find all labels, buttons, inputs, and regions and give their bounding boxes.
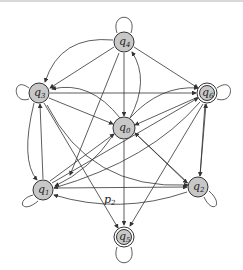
node-q6: q6 <box>197 83 217 103</box>
self-loops <box>16 17 230 263</box>
state-diagram: q4 q3 q6 q0 q1 q2 q5 p2 <box>0 0 243 270</box>
node-q4: q4 <box>114 32 134 52</box>
node-q5: q5 <box>114 227 134 247</box>
node-q0: q0 <box>113 117 135 139</box>
nodes: q4 q3 q6 q0 q1 q2 q5 <box>29 32 217 247</box>
node-q3: q3 <box>29 83 49 103</box>
node-q1: q1 <box>33 180 53 200</box>
edge-label-p2: p2 <box>104 193 116 207</box>
node-q2: q2 <box>188 177 208 197</box>
